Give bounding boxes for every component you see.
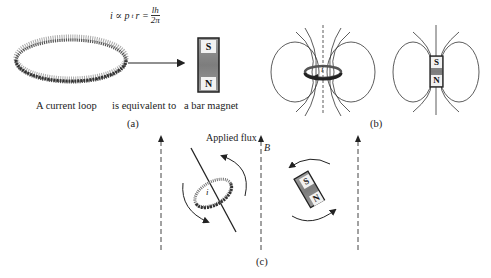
pole-s-a: S xyxy=(201,40,216,53)
label-bar-magnet: a bar magnet xyxy=(184,100,238,111)
current-loop-c xyxy=(190,173,236,213)
formula-fraction: lh 2π xyxy=(151,6,160,25)
current-symbol-c: i xyxy=(206,187,209,197)
caption-c: (c) xyxy=(256,256,268,267)
label-applied-flux: Applied flux xyxy=(206,132,257,143)
applied-flux-lines xyxy=(161,142,358,250)
rotation-arrow-c-magnet-bottom xyxy=(292,210,335,221)
label-is-equivalent: is equivalent to xyxy=(112,100,176,111)
pole-n-a: N xyxy=(201,77,216,90)
formula-denominator: 2π xyxy=(151,16,160,25)
formula-lhs: i ∝ p xyxy=(110,10,130,21)
pole-s-b: S xyxy=(431,57,442,68)
formula-mid: r = xyxy=(136,10,149,21)
rotation-arrow-c-right xyxy=(222,156,246,196)
flux-arrowheads xyxy=(158,135,361,142)
field-symbol-b: B xyxy=(264,142,270,153)
rotation-arrow-c-magnet-top xyxy=(290,159,330,167)
label-current-loop: A current loop xyxy=(36,100,97,111)
current-loop-a xyxy=(16,37,126,82)
formula-subscript: t xyxy=(132,12,134,20)
caption-b: (b) xyxy=(370,118,382,129)
caption-a: (a) xyxy=(127,118,139,129)
pole-n-b: N xyxy=(431,75,442,86)
formula-loop-current: i ∝ pt r = lh 2π xyxy=(110,6,160,25)
current-symbol-b: i xyxy=(321,64,324,74)
